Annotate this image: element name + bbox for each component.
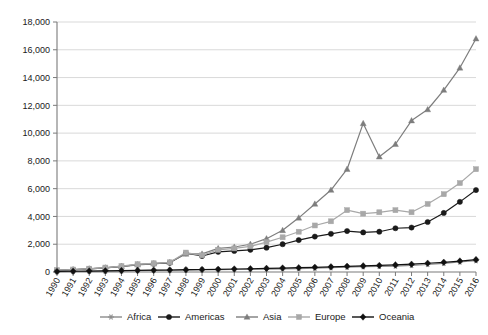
x-axis-tick-label: 2003 bbox=[253, 276, 272, 298]
marker-diamond bbox=[264, 265, 270, 272]
marker-diamond bbox=[376, 262, 382, 269]
marker-diamond bbox=[360, 314, 366, 321]
y-axis-tick-label: 12,000 bbox=[22, 101, 50, 111]
x-axis-tick-label: 2002 bbox=[237, 276, 256, 298]
marker-diamond bbox=[425, 260, 431, 267]
marker-diamond bbox=[247, 265, 253, 272]
legend-label: Oceania bbox=[379, 311, 415, 322]
marker-circle bbox=[377, 229, 382, 234]
marker-square bbox=[183, 250, 188, 255]
series-asia bbox=[54, 36, 479, 273]
chart-legend: AfricaAmericasAsiaEuropeOceania bbox=[100, 311, 415, 322]
x-axis-tick-label: 1991 bbox=[60, 276, 79, 298]
marker-diamond bbox=[409, 261, 415, 268]
marker-diamond bbox=[441, 259, 447, 266]
x-axis-tick-label: 1993 bbox=[92, 276, 111, 298]
marker-square bbox=[312, 223, 317, 228]
marker-square bbox=[345, 208, 350, 213]
x-axis-tick-label: 1994 bbox=[108, 276, 127, 298]
x-axis-tick-label: 2004 bbox=[269, 276, 288, 298]
x-axis-tick-label: 2006 bbox=[301, 276, 320, 298]
legend-label: Asia bbox=[263, 311, 282, 322]
marker-diamond bbox=[473, 256, 479, 263]
marker-square bbox=[280, 235, 285, 240]
marker-circle bbox=[166, 314, 171, 319]
y-axis-tick-label: 14,000 bbox=[22, 73, 50, 83]
marker-square bbox=[167, 260, 172, 265]
x-axis-tick-label: 1992 bbox=[76, 276, 95, 298]
marker-square bbox=[441, 192, 446, 197]
marker-square bbox=[457, 181, 462, 186]
marker-circle bbox=[457, 199, 462, 204]
marker-square bbox=[297, 315, 302, 320]
legend-label: Africa bbox=[127, 311, 152, 322]
series-line bbox=[57, 190, 476, 270]
marker-circle bbox=[296, 237, 301, 242]
marker-diamond bbox=[328, 264, 334, 271]
marker-square bbox=[474, 167, 479, 172]
series-line bbox=[57, 169, 476, 270]
marker-square bbox=[296, 229, 301, 234]
y-axis-tick-label: 2,000 bbox=[27, 239, 50, 249]
y-axis-tick-label: 10,000 bbox=[22, 128, 50, 138]
legend-item-africa[interactable]: Africa bbox=[100, 311, 152, 322]
marker-square bbox=[393, 208, 398, 213]
x-axis-tick-label: 1996 bbox=[140, 276, 159, 298]
legend-item-asia[interactable]: Asia bbox=[236, 311, 282, 322]
marker-square bbox=[216, 247, 221, 252]
x-axis-tick-label: 2005 bbox=[285, 276, 304, 298]
marker-square bbox=[361, 211, 366, 216]
marker-circle bbox=[344, 228, 349, 233]
marker-square bbox=[328, 219, 333, 224]
marker-circle bbox=[264, 245, 269, 250]
marker-diamond bbox=[231, 266, 237, 273]
marker-square bbox=[377, 210, 382, 215]
marker-triangle bbox=[473, 36, 479, 41]
marker-circle bbox=[328, 231, 333, 236]
x-axis-tick-label: 2013 bbox=[414, 276, 433, 298]
marker-circle bbox=[312, 234, 317, 239]
marker-square bbox=[425, 201, 430, 206]
y-axis-tick-label: 8,000 bbox=[27, 156, 50, 166]
marker-diamond bbox=[457, 258, 463, 265]
x-axis-tick-label: 2010 bbox=[366, 276, 385, 298]
marker-circle bbox=[280, 242, 285, 247]
y-axis-tick-label: 6,000 bbox=[27, 184, 50, 194]
marker-diamond bbox=[280, 265, 286, 272]
marker-square bbox=[200, 253, 205, 258]
x-axis-tick-label: 2000 bbox=[205, 276, 224, 298]
chart-canvas: 02,0004,0006,0008,00010,00012,00014,0001… bbox=[0, 0, 488, 335]
marker-diamond bbox=[312, 264, 318, 271]
marker-triangle bbox=[360, 120, 366, 125]
marker-square bbox=[135, 262, 140, 267]
x-axis-tick-label: 1998 bbox=[172, 276, 191, 298]
y-axis-tick-label: 16,000 bbox=[22, 45, 50, 55]
marker-circle bbox=[441, 210, 446, 215]
marker-triangle bbox=[344, 166, 350, 171]
x-axis-tick-label: 2016 bbox=[463, 276, 482, 298]
x-axis-tick-label: 2001 bbox=[221, 276, 240, 298]
legend-item-americas[interactable]: Americas bbox=[158, 311, 225, 322]
marker-square bbox=[151, 261, 156, 266]
legend-item-europe[interactable]: Europe bbox=[288, 311, 346, 322]
x-axis-tick-label: 1995 bbox=[124, 276, 143, 298]
marker-circle bbox=[361, 230, 366, 235]
x-axis-tick-label: 1999 bbox=[189, 276, 208, 298]
marker-diamond bbox=[392, 262, 398, 269]
x-axis-tick-label: 2008 bbox=[334, 276, 353, 298]
x-axis-tick-label: 2009 bbox=[350, 276, 369, 298]
marker-diamond bbox=[135, 267, 141, 274]
line-chart: 02,0004,0006,0008,00010,00012,00014,0001… bbox=[0, 0, 488, 335]
marker-triangle bbox=[409, 118, 415, 123]
marker-square bbox=[232, 246, 237, 251]
marker-triangle bbox=[457, 65, 463, 70]
y-axis-tick-label: 0 bbox=[45, 267, 50, 277]
marker-diamond bbox=[360, 263, 366, 270]
x-axis-tick-label: 2015 bbox=[446, 276, 465, 298]
marker-diamond bbox=[296, 264, 302, 271]
legend-item-oceania[interactable]: Oceania bbox=[352, 311, 415, 322]
marker-diamond bbox=[344, 263, 350, 270]
marker-star bbox=[108, 314, 114, 319]
x-axis-tick-label: 1997 bbox=[156, 276, 175, 298]
series-americas bbox=[54, 187, 478, 272]
